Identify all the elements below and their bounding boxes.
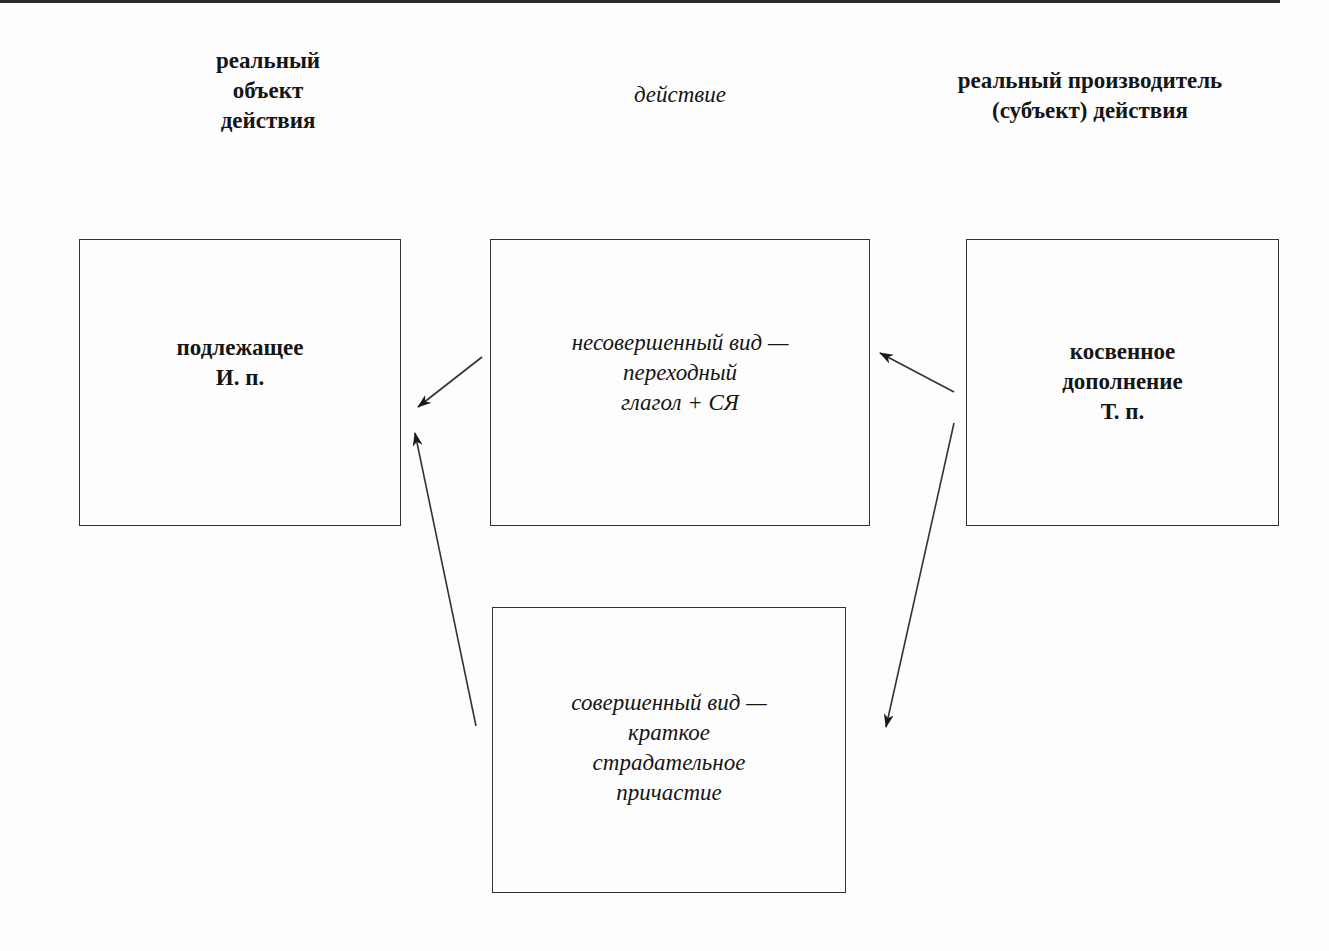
arrow-perfective-to-subject (415, 433, 476, 726)
arrow-imperfective-to-subject (418, 357, 482, 407)
arrows-layer (0, 0, 1329, 951)
arrow-indirect-object-to-imperfective (880, 353, 954, 392)
arrow-indirect-object-to-perfective (886, 423, 954, 727)
